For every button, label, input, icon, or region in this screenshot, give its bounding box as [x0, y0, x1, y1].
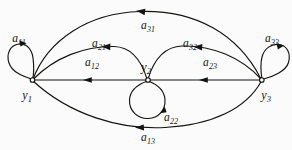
edge-label-a12-base: a	[85, 56, 91, 68]
edge-label-a33: a33	[265, 29, 279, 45]
node-label-y1-sub: 1	[28, 94, 32, 104]
a33-loop-path	[261, 44, 289, 79]
node-marker-y3[interactable]	[260, 78, 265, 83]
a13-arc-path	[33, 81, 262, 128]
edge-label-a22: a22	[164, 108, 178, 124]
edge-label-a13-sub: 13	[147, 137, 155, 146]
edge-label-a21-sub: 21	[98, 43, 106, 52]
edge-label-a13: a13	[141, 128, 155, 144]
node-label-y3: y3	[261, 86, 271, 102]
node-label-y2-sub: 2	[147, 66, 151, 76]
node-label-y2-base: y	[141, 60, 146, 74]
node-label-y3-base: y	[261, 88, 266, 102]
edge-label-a22-base: a	[164, 111, 170, 123]
edge-label-a33-base: a	[265, 32, 271, 44]
edge-label-a32: a32	[183, 34, 197, 50]
edge-label-a12-sub: 12	[91, 62, 99, 71]
edge-label-a23-base: a	[203, 56, 209, 68]
a23-arrowhead	[199, 77, 208, 83]
edge-a23-straight	[149, 77, 262, 83]
edge-label-a23: a23	[203, 53, 217, 69]
edge-a13-arc	[33, 81, 262, 130]
edge-label-a21-base: a	[92, 37, 98, 49]
edge-label-a32-base: a	[183, 37, 189, 49]
node-marker-y2[interactable]	[146, 78, 151, 83]
node-label-y1: y1	[22, 86, 32, 102]
node-label-y2: y2	[141, 58, 151, 74]
edge-label-a22-sub: 22	[170, 117, 178, 126]
edge-label-a33-sub: 33	[271, 38, 279, 47]
a12-arrowhead	[83, 77, 92, 83]
node-marker-y1[interactable]	[30, 78, 35, 83]
edge-label-a11-base: a	[12, 32, 18, 44]
edge-label-a31-base: a	[141, 19, 147, 31]
a22-loop-path	[129, 81, 165, 119]
edge-label-a11-sub: 11	[18, 38, 26, 47]
node-label-y1-base: y	[22, 88, 27, 102]
edge-a33-self-loop	[261, 43, 289, 79]
edge-a22-self-loop	[129, 81, 166, 119]
edge-a12-straight	[33, 77, 148, 83]
edge-label-a21: a21	[92, 34, 106, 50]
a11-loop-path	[8, 44, 34, 80]
edge-label-a23-sub: 23	[209, 62, 217, 71]
edge-label-a11: a11	[12, 29, 25, 45]
edge-label-a12: a12	[85, 53, 99, 69]
edge-label-a32-sub: 32	[189, 43, 197, 52]
edge-label-a31: a31	[141, 16, 155, 32]
edge-label-a13-base: a	[141, 131, 147, 143]
edge-label-a31-sub: 31	[147, 25, 155, 34]
diagram-canvas: y1 y2 y3 a11 a21 a31 a12 a32 a33 a23 a22…	[0, 0, 292, 150]
node-label-y3-sub: 3	[267, 94, 271, 104]
